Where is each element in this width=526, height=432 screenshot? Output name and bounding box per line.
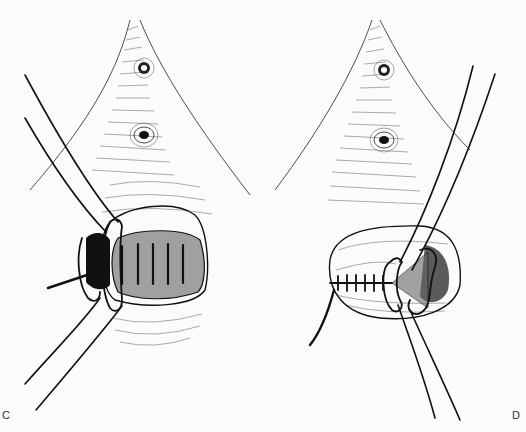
panel-c-upper-tubes [25,75,118,232]
panel-c-perineum-outline-right [140,20,250,195]
panel-d-perineum-outline-left [275,20,372,190]
panel-d-upper-orifice [374,60,394,80]
panel-d-perineum-outline-right [380,20,470,150]
panel-d-skin-hatching [328,26,424,204]
panel-d-drawing [275,20,495,420]
panel-c-perineum-outline-left [30,20,130,190]
panel-c-skin-hatching [92,26,212,214]
panel-c-mucosa [112,231,204,299]
panel-label-d: D [512,409,520,421]
panel-c-dark-recess [86,233,110,289]
panel-c-lower-tubes [25,298,122,410]
panel-d-drain [310,290,334,345]
panel-d-lower-tubes [398,305,460,420]
panel-c-drawing [25,20,250,410]
panel-c-upper-orifice [134,58,154,78]
panel-d-upper-tubes [400,66,495,270]
surgical-illustration: C D [0,0,526,432]
panel-label-c: C [2,409,10,421]
illustration-canvas [0,0,526,432]
panel-d-lower-orifice [370,128,398,152]
panel-c-lower-orifice [130,123,158,147]
panel-c-lower-hatching [112,314,202,345]
